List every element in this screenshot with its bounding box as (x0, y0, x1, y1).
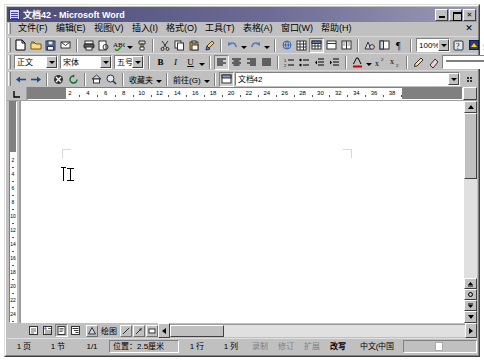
paste-clipboard-icon[interactable] (187, 38, 202, 53)
format-painter-brush-icon[interactable] (202, 38, 217, 53)
restore-button[interactable] (449, 9, 462, 21)
underline-button[interactable]: U (183, 55, 198, 70)
font-color-dropdown-arrow-icon[interactable] (365, 55, 373, 70)
status-track-changes[interactable]: 修订 (273, 340, 299, 353)
font-combo[interactable]: 宋体 (60, 55, 112, 69)
menu-edit[interactable]: 编辑(E) (52, 22, 90, 35)
web-toolbar-more-icon[interactable] (462, 72, 477, 87)
superscript-icon[interactable]: x2 (373, 55, 388, 70)
menu-table[interactable]: 表格(A) (239, 22, 277, 35)
insert-excel-sheet-icon[interactable] (324, 38, 339, 53)
close-button[interactable]: ✕ (463, 9, 476, 21)
vertical-ruler-track[interactable]: 24681012141618202224 (9, 101, 17, 323)
font-color-icon[interactable] (350, 55, 365, 70)
page-scroll-area[interactable] (20, 101, 464, 323)
vertical-scroll-track[interactable] (464, 113, 477, 278)
numbered-list-icon[interactable]: 12 (282, 55, 297, 70)
help-question-icon[interactable]: ? (451, 38, 466, 53)
undo-arrow-icon[interactable] (225, 38, 240, 53)
forward-arrow-icon[interactable] (28, 72, 43, 87)
scroll-down-button[interactable] (464, 311, 477, 323)
eraser-icon[interactable] (426, 55, 441, 70)
close-document-button[interactable]: ✕ (463, 23, 475, 34)
zoom-combo[interactable]: 100% (416, 38, 450, 52)
style-combo[interactable]: 正文 (14, 55, 58, 69)
subscript-icon[interactable]: x2 (388, 55, 403, 70)
address-combo[interactable]: 文档42 (235, 72, 460, 86)
scroll-up-button[interactable] (464, 101, 477, 113)
line-icon[interactable] (120, 325, 132, 337)
italic-button[interactable]: I (168, 55, 183, 70)
menu-file[interactable]: 文件(F) (14, 22, 52, 35)
menu-tools[interactable]: 工具(T) (201, 22, 239, 35)
previous-page-button[interactable] (464, 278, 477, 289)
style-dropdown-button[interactable] (46, 56, 57, 68)
horizontal-scroll-track[interactable] (170, 324, 465, 337)
go-dropdown-arrow-icon[interactable] (203, 72, 211, 87)
vertical-scroll-thumb[interactable] (464, 113, 477, 179)
horizontal-ruler[interactable]: 2468101214161820222426283032343638 (7, 87, 477, 101)
home-icon[interactable] (89, 72, 104, 87)
status-extend-selection[interactable]: 扩展 (299, 340, 325, 353)
zoom-dropdown-button[interactable] (438, 39, 449, 51)
bulleted-list-icon[interactable] (297, 55, 312, 70)
vertical-ruler[interactable]: 24681012141618202224 (7, 101, 20, 323)
font-size-combo[interactable]: 五号 (114, 55, 144, 69)
drawing-icon[interactable] (362, 38, 377, 53)
menu-insert[interactable]: 插入(I) (128, 22, 163, 35)
document-map-icon[interactable] (377, 38, 392, 53)
menubar-grip[interactable] (8, 23, 11, 34)
tab-stop-left-icon[interactable] (7, 87, 27, 100)
favorites-label[interactable]: 收藏夹 (127, 74, 155, 85)
insert-table-icon[interactable] (309, 38, 324, 53)
drawing-label[interactable]: 绘图 (99, 325, 119, 336)
go-label[interactable]: 前往(G) (171, 74, 203, 85)
vertical-scrollbar[interactable] (464, 101, 477, 323)
redo-dropdown-arrow-icon[interactable] (263, 38, 271, 53)
ruler-track[interactable]: 2468101214161820222426283032343638 (27, 87, 463, 100)
select-browse-object-button[interactable] (464, 289, 477, 300)
status-overtype[interactable]: 改写 (325, 340, 351, 353)
minimize-button[interactable] (435, 9, 448, 21)
arrow-icon[interactable] (133, 325, 145, 337)
rectangle-icon[interactable] (146, 325, 158, 337)
refresh-icon[interactable] (66, 72, 81, 87)
favorites-dropdown-arrow-icon[interactable] (155, 72, 163, 87)
redo-arrow-icon[interactable] (248, 38, 263, 53)
menu-window[interactable]: 窗口(W) (277, 22, 318, 35)
spelling-check-icon[interactable]: ABC (111, 38, 126, 53)
decrease-indent-icon[interactable] (312, 55, 327, 70)
align-right-icon[interactable] (244, 55, 259, 70)
font-dropdown-button[interactable] (100, 56, 111, 68)
ruler-end-button[interactable] (463, 87, 477, 100)
normal-view-button[interactable] (27, 324, 40, 337)
open-folder-icon[interactable] (28, 38, 43, 53)
tables-and-borders-icon[interactable] (294, 38, 309, 53)
next-page-button[interactable] (464, 300, 477, 311)
undo-dropdown-arrow-icon[interactable] (240, 38, 248, 53)
horizontal-scroll-thumb[interactable] (170, 325, 224, 337)
show-formatting-marks-icon[interactable]: ¶ (392, 38, 407, 53)
bold-button[interactable]: B (153, 55, 168, 70)
format-painter-icon[interactable] (134, 38, 149, 53)
show-only-web-toolbar-icon[interactable] (219, 72, 234, 87)
spelling-dropdown-arrow-icon[interactable] (126, 38, 134, 53)
menu-help[interactable]: 帮助(H) (317, 22, 356, 35)
pencil-icon[interactable] (411, 55, 426, 70)
print-icon[interactable] (81, 38, 96, 53)
status-language[interactable]: 中文(中国 (351, 340, 403, 353)
back-arrow-icon[interactable] (13, 72, 28, 87)
web-layout-view-button[interactable] (41, 324, 54, 337)
print-layout-view-button[interactable] (55, 324, 68, 337)
cut-scissors-icon[interactable] (157, 38, 172, 53)
columns-icon[interactable] (339, 38, 354, 53)
left-margin-area[interactable] (28, 88, 66, 99)
scroll-right-button[interactable] (465, 323, 477, 338)
address-input[interactable]: 文档42 (238, 74, 448, 85)
status-record-mode[interactable]: 录制 (247, 340, 273, 353)
document-page[interactable] (20, 101, 464, 323)
align-justify-icon[interactable] (259, 55, 274, 70)
print-preview-icon[interactable] (96, 38, 111, 53)
status-spelling[interactable] (403, 340, 477, 353)
autoshapes-icon[interactable] (86, 325, 98, 337)
